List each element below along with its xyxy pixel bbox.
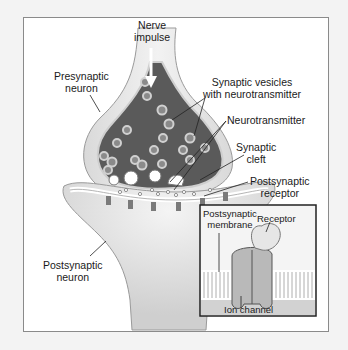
label-nerve-impulse: Nerve impulse — [134, 19, 170, 43]
inset-label-receptor: Receptor — [257, 213, 296, 224]
label-line: Synaptic — [236, 141, 276, 153]
label-line: Presynaptic — [54, 70, 109, 82]
label-line: neuron — [54, 82, 109, 94]
label-postsynaptic-receptor: Postsynaptic receptor — [250, 175, 310, 199]
label-line: receptor — [250, 187, 310, 199]
label-line: cleft — [236, 153, 276, 165]
label-line: neuron — [43, 271, 103, 283]
label-line: Postsynaptic — [43, 259, 103, 271]
inset-label-postsynaptic-membrane: Postsynaptic membrane — [203, 208, 257, 230]
label-line: Synaptic vesicles — [203, 76, 301, 88]
label-synaptic-cleft: Synaptic cleft — [236, 141, 276, 165]
label-postsynaptic-neuron: Postsynaptic neuron — [43, 259, 103, 283]
label-synaptic-vesicles: Synaptic vesicles with neurotransmitter — [203, 76, 301, 100]
label-line: Postsynaptic — [203, 208, 257, 219]
label-neurotransmitter: Neurotransmitter — [227, 114, 305, 126]
label-line: impulse — [134, 31, 170, 43]
label-line: Nerve — [134, 19, 170, 31]
label-line: with neurotransmitter — [203, 88, 301, 100]
label-presynaptic-neuron: Presynaptic neuron — [54, 70, 109, 94]
label-line: membrane — [203, 219, 257, 230]
inset-label-ion-channel: Ion channel — [224, 304, 273, 315]
label-line: Postsynaptic — [250, 175, 310, 187]
